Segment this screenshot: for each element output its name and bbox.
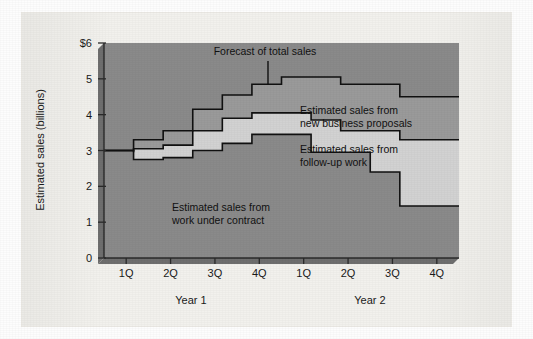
y-tick-label: 5	[86, 73, 92, 85]
x-axis-group-label-year-1: Year 1	[175, 294, 206, 306]
y-tick-label: 0	[86, 252, 92, 264]
annotation-under-contract-line-2: work under contract	[171, 214, 264, 226]
annotation-under-contract-line-1: Estimated sales from	[172, 201, 270, 213]
x-tick-label: 3Q	[385, 267, 400, 279]
y-tick-label: 2	[86, 180, 92, 192]
annotation-forecast-total-sales: Forecast of total sales	[214, 45, 317, 57]
x-tick-label: 4Q	[429, 267, 444, 279]
annotation-new-business-line-1: Estimated sales from	[300, 104, 398, 116]
x-tick-label: 2Q	[341, 267, 356, 279]
y-tick-label: 4	[86, 109, 92, 121]
y-tick-label: 1	[86, 216, 92, 228]
x-tick-label: 1Q	[296, 267, 311, 279]
x-tick-label: 1Q	[119, 267, 134, 279]
x-tick-label: 3Q	[208, 267, 223, 279]
y-tick-label: 3	[86, 145, 92, 157]
y-tick-label: $6	[80, 37, 92, 49]
figure-root: $6543210 1Q2Q3Q4Q1Q2Q3Q4Q Estimated sale…	[0, 0, 533, 339]
annotation-follow-up-line-1: Estimated sales from	[300, 143, 398, 155]
annotation-follow-up-line-2: follow-up work	[300, 156, 368, 168]
plot-side-slab	[98, 43, 104, 264]
x-tick-label: 2Q	[163, 267, 178, 279]
annotation-new-business-line-2: new business proposals	[300, 117, 412, 129]
sales-forecast-chart: $6543210 1Q2Q3Q4Q1Q2Q3Q4Q Estimated sale…	[0, 0, 533, 339]
plot-bottom-slab	[98, 258, 459, 264]
y-axis-title: Estimated sales (billions)	[34, 89, 46, 211]
x-axis-group-label-year-2: Year 2	[354, 294, 385, 306]
x-tick-label: 4Q	[252, 267, 267, 279]
